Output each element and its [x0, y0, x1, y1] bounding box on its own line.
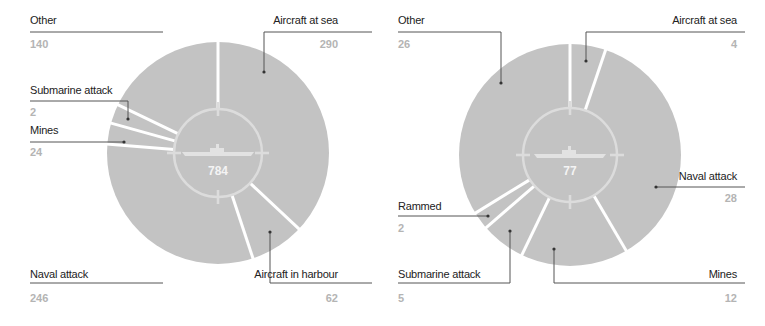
leader-anchor-dot [486, 214, 489, 217]
right-value-other: 26 [398, 38, 410, 50]
left-value-aircraft-at-sea: 290 [320, 38, 338, 50]
left-value-other: 140 [30, 38, 48, 50]
left-label-aircraft-in-harbour: Aircraft in harbour [254, 268, 338, 280]
left-label-naval-attack: Naval attack [30, 268, 88, 280]
leader-anchor-dot [122, 140, 125, 143]
leader-anchor-dot [499, 81, 502, 84]
left-value-mines: 24 [30, 146, 42, 158]
left-value-aircraft-in-harbour: 62 [326, 292, 338, 304]
leader-anchor-dot [268, 230, 271, 233]
leader-anchor-dot [262, 70, 265, 73]
right-label-mines: Mines [709, 268, 737, 280]
left-label-mines: Mines [30, 124, 58, 136]
leader-anchor-dot [126, 117, 129, 120]
left-label-aircraft-at-sea: Aircraft at sea [273, 14, 338, 26]
right-value-aircraft-at-sea: 4 [731, 38, 737, 50]
right-value-submarine-attack: 5 [398, 292, 404, 304]
left-total: 784 [198, 164, 238, 178]
right-total: 77 [550, 164, 590, 178]
right-label-naval-attack: Naval attack [679, 170, 737, 182]
right-value-mines: 12 [725, 292, 737, 304]
right-donut-chart [459, 43, 681, 266]
left-donut-chart [106, 41, 329, 264]
leader-anchor-dot [654, 185, 657, 188]
right-label-submarine-attack: Submarine attack [398, 268, 480, 280]
right-value-rammed: 2 [398, 222, 404, 234]
left-value-naval-attack: 246 [30, 292, 48, 304]
charts-canvas [0, 0, 765, 326]
leader-line [398, 32, 501, 83]
leader-anchor-dot [584, 59, 587, 62]
left-label-other: Other [30, 14, 57, 26]
right-label-other: Other [398, 14, 425, 26]
right-value-naval-attack: 28 [725, 192, 737, 204]
right-label-aircraft-at-sea: Aircraft at sea [672, 14, 737, 26]
leader-anchor-dot [552, 247, 555, 250]
leader-anchor-dot [508, 229, 511, 232]
right-label-rammed: Rammed [398, 200, 441, 212]
left-value-submarine-attack: 2 [30, 106, 36, 118]
left-label-submarine-attack: Submarine attack [30, 84, 112, 96]
